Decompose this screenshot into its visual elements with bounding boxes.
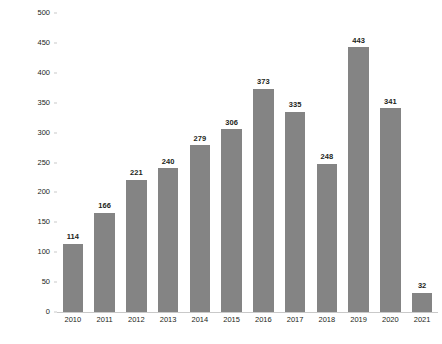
bar-rect[interactable] — [126, 180, 146, 312]
bar-item[interactable]: 341 — [380, 13, 400, 312]
y-axis-tick-mark — [54, 42, 57, 43]
x-axis-tick-label: 2017 — [287, 316, 304, 324]
bar-rect[interactable] — [253, 89, 273, 312]
bar-rect[interactable] — [285, 112, 305, 312]
x-axis-tick-label: 2021 — [414, 316, 431, 324]
y-axis-tick-mark — [54, 72, 57, 73]
x-axis-tick-label: 2011 — [97, 316, 113, 324]
y-axis-tick-mark — [54, 102, 57, 103]
bar-rect[interactable] — [158, 168, 178, 312]
bar-value-label: 443 — [352, 37, 365, 45]
x-axis-tick-label: 2018 — [319, 316, 336, 324]
x-axis-tick-label: 2016 — [255, 316, 272, 324]
bar-rect[interactable] — [63, 244, 83, 312]
bar-value-label: 306 — [225, 119, 238, 127]
y-axis-tick-mark — [54, 282, 57, 283]
bar-rect[interactable] — [317, 164, 337, 312]
bar-item[interactable]: 32 — [412, 13, 432, 312]
bar-item[interactable]: 166 — [94, 13, 114, 312]
bar-item[interactable]: 335 — [285, 13, 305, 312]
bar-value-label: 32 — [418, 282, 426, 290]
bar-value-label: 279 — [194, 135, 207, 143]
bar-value-label: 373 — [257, 78, 270, 86]
bar-value-label: 248 — [321, 153, 334, 161]
bar-value-label: 240 — [162, 158, 175, 166]
bar-item[interactable]: 248 — [317, 13, 337, 312]
bar-value-label: 114 — [67, 233, 79, 241]
x-axis-tick-label: 2010 — [65, 316, 82, 324]
bar-rect[interactable] — [348, 47, 368, 312]
x-axis-tick-label: 2013 — [160, 316, 177, 324]
bar-chart: Number of Records 5004504003503002502001… — [0, 0, 442, 344]
bar-rect[interactable] — [380, 108, 400, 312]
x-axis-tick-label: 2012 — [128, 316, 145, 324]
y-axis-tick-mark — [54, 162, 57, 163]
bar-item[interactable]: 240 — [158, 13, 178, 312]
x-axis-tick-label: 2020 — [382, 316, 399, 324]
bar-value-label: 221 — [130, 169, 143, 177]
x-axis-baseline — [57, 312, 438, 313]
y-axis-tick-mark — [54, 252, 57, 253]
bar-item[interactable]: 221 — [126, 13, 146, 312]
bar-item[interactable]: 373 — [253, 13, 273, 312]
x-axis-tick-label: 2019 — [350, 316, 367, 324]
bar-item[interactable]: 443 — [348, 13, 368, 312]
bar-value-label: 341 — [384, 98, 397, 106]
y-axis-tick-mark — [54, 192, 57, 193]
bar-item[interactable]: 306 — [221, 13, 241, 312]
bar-item[interactable]: 114 — [63, 13, 83, 312]
y-axis-tick-mark — [54, 312, 57, 313]
y-axis-tick-mark — [54, 13, 57, 14]
bar-value-label: 335 — [289, 101, 302, 109]
y-axis-tick-mark — [54, 222, 57, 223]
bar-rect[interactable] — [190, 145, 210, 312]
bar-rect[interactable] — [94, 213, 114, 312]
plot-area: 500450400350300250200150100500 114166221… — [57, 13, 438, 312]
bar-rect[interactable] — [412, 293, 432, 312]
y-axis-tick-mark — [54, 132, 57, 133]
bar-rect[interactable] — [221, 129, 241, 312]
x-axis-tick-label: 2014 — [192, 316, 209, 324]
bar-value-label: 166 — [98, 202, 111, 210]
x-axis-tick-label: 2015 — [223, 316, 240, 324]
bar-item[interactable]: 279 — [190, 13, 210, 312]
